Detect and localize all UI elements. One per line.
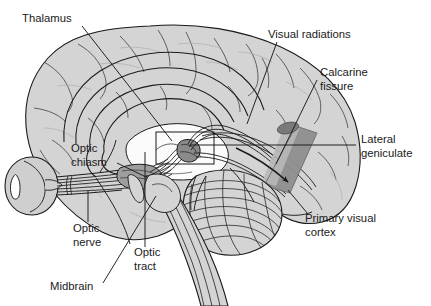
label-primary-visual-cortex-line2: cortex [305,226,336,238]
label-optic-tract-line1: Optic [134,246,161,258]
label-optic-nerve-line2: nerve [73,236,101,248]
visual-pathway-diagram: Thalamus Visual radiations Calcarine fis… [0,0,431,306]
label-thalamus: Thalamus [22,12,72,24]
label-lateral-geniculate-line2: geniculate [361,147,413,159]
label-visual-radiations: Visual radiations [268,28,351,40]
label-optic-chiasm-line2: chiasm [71,156,107,168]
diagram-canvas: Thalamus Visual radiations Calcarine fis… [0,0,431,306]
label-calcarine-fissure-line1: Calcarine [320,66,368,78]
label-optic-tract-line2: tract [134,260,157,272]
label-optic-chiasm-line1: Optic [71,142,98,154]
label-optic-nerve-line1: Optic [73,222,100,234]
label-primary-visual-cortex-line1: Primary visual [305,212,376,224]
label-lateral-geniculate-line1: Lateral [361,133,396,145]
lens [10,175,20,200]
label-midbrain: Midbrain [50,280,93,292]
label-calcarine-fissure-line2: fissure [320,80,353,92]
